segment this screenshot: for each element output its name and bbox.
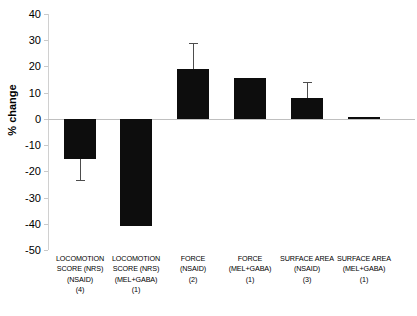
y-tick-label: 30 [0, 35, 41, 46]
y-tick-label: -10 [0, 140, 41, 151]
bar-chart: % change 403020100-10-20-30-40-50 LOCOMO… [0, 0, 417, 316]
bar [234, 78, 266, 119]
bar [120, 119, 152, 227]
x-category-label: SURFACE AREA (MEL+GABA) (1) [331, 254, 397, 285]
error-bar-cap [303, 82, 312, 83]
y-axis-line [48, 14, 49, 250]
y-tick-mark [44, 145, 48, 146]
y-tick-label: -30 [0, 192, 41, 203]
y-tick-mark [44, 40, 48, 41]
error-bar-stem [307, 82, 308, 98]
y-tick-mark [44, 93, 48, 94]
error-bar-stem [80, 159, 81, 180]
bar [177, 69, 209, 119]
bar [348, 117, 380, 119]
error-bar-stem [193, 43, 194, 69]
bar [291, 98, 323, 119]
y-tick-mark [44, 224, 48, 225]
y-tick-mark [44, 250, 48, 251]
y-tick-label: -40 [0, 218, 41, 229]
y-tick-label: 20 [0, 61, 41, 72]
y-tick-label: 40 [0, 9, 41, 20]
plot-area: 403020100-10-20-30-40-50 [48, 14, 415, 250]
y-tick-mark [44, 14, 48, 15]
y-tick-mark [44, 198, 48, 199]
zero-baseline [48, 119, 415, 120]
y-tick-label: 0 [0, 113, 41, 124]
error-bar-cap [189, 43, 198, 44]
y-tick-mark [44, 171, 48, 172]
y-tick-label: -20 [0, 166, 41, 177]
error-bar-cap [76, 180, 85, 181]
y-tick-mark [44, 66, 48, 67]
y-tick-label: -50 [0, 245, 41, 256]
bar [64, 119, 96, 159]
y-tick-label: 10 [0, 87, 41, 98]
